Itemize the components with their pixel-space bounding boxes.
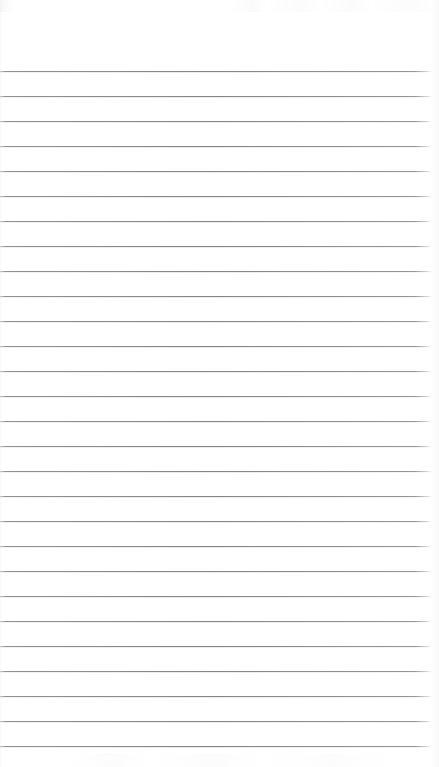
rule-line xyxy=(0,321,432,322)
rule-line xyxy=(0,546,432,547)
rule-line xyxy=(0,521,432,522)
rule-line xyxy=(0,446,432,447)
rule-line xyxy=(0,146,432,147)
rule-line xyxy=(0,721,432,722)
rule-line xyxy=(0,221,432,222)
rule-line xyxy=(0,346,432,347)
rule-line xyxy=(0,246,432,247)
rule-line xyxy=(0,171,432,172)
rule-line xyxy=(0,596,432,597)
rule-line xyxy=(0,196,432,197)
rule-line xyxy=(0,296,432,297)
rule-line xyxy=(0,121,432,122)
rule-line xyxy=(0,96,432,97)
rule-line xyxy=(0,646,432,647)
rule-line xyxy=(0,746,432,747)
rule-line xyxy=(0,471,432,472)
rule-line xyxy=(0,571,432,572)
rule-line xyxy=(0,371,432,372)
rule-line xyxy=(0,696,432,697)
scanned-ruled-page xyxy=(0,0,439,767)
rule-line xyxy=(0,496,432,497)
rule-line xyxy=(0,671,432,672)
rule-line xyxy=(0,271,432,272)
ruled-lines-group xyxy=(0,0,439,767)
rule-line xyxy=(0,396,432,397)
rule-line xyxy=(0,621,432,622)
rule-line xyxy=(0,421,432,422)
rule-line xyxy=(0,71,432,72)
